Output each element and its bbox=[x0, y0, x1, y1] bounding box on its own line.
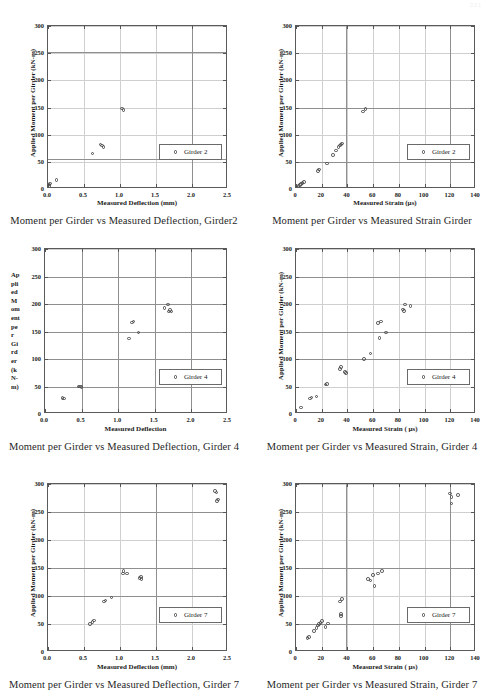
y-axis-tick-label: 300 bbox=[275, 245, 292, 252]
y-axis-tick bbox=[296, 162, 299, 163]
x-axis-tick-label: 120 bbox=[444, 416, 454, 423]
x-axis-tick-top bbox=[322, 484, 323, 487]
legend-marker-icon bbox=[422, 150, 425, 153]
x-axis-tick-label: 0 bbox=[293, 416, 296, 423]
x-axis-tick-top bbox=[155, 249, 156, 252]
y-axis-tick-label: 150 bbox=[275, 327, 292, 334]
data-point bbox=[325, 382, 329, 386]
data-point bbox=[456, 493, 460, 497]
data-point bbox=[302, 180, 306, 184]
y-axis-tick-right bbox=[223, 26, 226, 27]
x-axis-tick bbox=[120, 184, 121, 187]
gridline-horizontal bbox=[48, 540, 226, 541]
x-axis-tick bbox=[399, 409, 400, 412]
x-axis-tick-top bbox=[84, 484, 85, 487]
legend[interactable]: Girder 7 bbox=[407, 607, 470, 623]
plot-canvas: Girder 7 bbox=[48, 484, 226, 650]
data-point bbox=[102, 145, 106, 149]
data-point bbox=[331, 153, 335, 157]
legend[interactable]: Girder 2 bbox=[159, 144, 222, 160]
legend-label: Girder 2 bbox=[432, 148, 456, 156]
gridline-horizontal-major bbox=[45, 277, 226, 278]
data-point bbox=[340, 142, 344, 146]
gridline-vertical bbox=[347, 249, 348, 412]
x-axis-title: Measured Deflection bbox=[44, 425, 227, 433]
x-axis-tick bbox=[191, 409, 192, 412]
gridline-horizontal-major bbox=[296, 108, 474, 109]
y-axis-tick bbox=[48, 512, 51, 513]
data-point bbox=[379, 320, 383, 324]
gridline-horizontal-major bbox=[45, 332, 226, 333]
x-axis-tick bbox=[373, 409, 374, 412]
legend[interactable]: Girder 4 bbox=[159, 369, 222, 385]
y-axis-tick bbox=[48, 540, 51, 541]
x-axis-tick bbox=[45, 409, 46, 412]
data-point bbox=[91, 152, 95, 156]
y-axis-tick-label: 200 bbox=[27, 536, 44, 543]
x-axis-tick bbox=[155, 409, 156, 412]
data-point bbox=[373, 584, 377, 588]
data-point bbox=[334, 149, 338, 153]
legend[interactable]: Girder 2 bbox=[407, 144, 470, 160]
y-axis-tick bbox=[48, 162, 51, 163]
x-axis-tick-label: 2.5 bbox=[223, 416, 231, 423]
x-axis-tick-top bbox=[192, 484, 193, 487]
gridline-horizontal-major bbox=[48, 52, 226, 53]
y-axis-tick bbox=[48, 135, 51, 136]
data-point bbox=[299, 406, 303, 410]
legend-label: Girder 7 bbox=[432, 611, 456, 619]
data-point bbox=[312, 629, 316, 633]
plot-area: Girder 7 bbox=[47, 483, 227, 651]
x-axis-tick bbox=[450, 184, 451, 187]
y-axis-tick-label: 200 bbox=[275, 300, 292, 307]
gridline-vertical bbox=[425, 484, 426, 650]
y-axis-tick-label: 150 bbox=[275, 564, 292, 571]
y-axis-tick-right bbox=[471, 277, 474, 278]
y-axis-tick-label: 300 bbox=[27, 480, 44, 487]
y-axis-tick-label: 100 bbox=[27, 130, 44, 137]
x-axis-tick-label: 100 bbox=[419, 416, 429, 423]
x-axis-tick-label: 1.5 bbox=[151, 654, 159, 661]
gridline-vertical bbox=[120, 484, 121, 650]
legend-marker-icon bbox=[422, 613, 425, 616]
y-axis-tick-label: 0 bbox=[27, 185, 44, 192]
data-point bbox=[340, 597, 344, 601]
data-point bbox=[122, 108, 126, 112]
x-axis-tick-top bbox=[399, 484, 400, 487]
x-axis-tick-label: 1.5 bbox=[150, 416, 158, 423]
plot-area: Girder 7 bbox=[295, 483, 475, 651]
gridline-vertical-major bbox=[192, 26, 193, 187]
y-axis-tick bbox=[296, 596, 299, 597]
x-axis-tick bbox=[425, 647, 426, 650]
y-axis-tick-right bbox=[223, 387, 226, 388]
figure-cell: Girder 7 Measured Deflection (mm) Applie… bbox=[0, 468, 248, 700]
figure-caption: Moment per Girder vs Measured Strain Gir… bbox=[248, 215, 496, 226]
data-point bbox=[104, 599, 108, 603]
gridline-horizontal bbox=[45, 249, 226, 250]
y-axis-tick-label: 100 bbox=[24, 355, 41, 362]
x-axis-tick-top bbox=[425, 484, 426, 487]
y-axis-tick-right bbox=[471, 135, 474, 136]
data-point bbox=[317, 168, 321, 172]
y-axis-tick-right bbox=[471, 80, 474, 81]
legend[interactable]: Girder 7 bbox=[159, 607, 222, 623]
x-axis-tick bbox=[399, 184, 400, 187]
y-axis-tick bbox=[296, 304, 299, 305]
figure-cell: Girder 4 Measured Strain ( µs) Applied M… bbox=[248, 238, 496, 468]
gridline-horizontal-major bbox=[296, 624, 474, 625]
y-axis-tick bbox=[296, 108, 299, 109]
gridline-vertical bbox=[347, 26, 348, 187]
y-axis-tick-label: 200 bbox=[27, 76, 44, 83]
data-point bbox=[315, 395, 319, 399]
gridline-vertical bbox=[322, 249, 323, 412]
x-axis-tick-top bbox=[399, 26, 400, 29]
y-axis-title-fragment: Gi bbox=[11, 340, 27, 349]
x-axis-tick bbox=[84, 184, 85, 187]
y-axis-tick bbox=[296, 277, 299, 278]
gridline-horizontal bbox=[48, 53, 226, 54]
y-axis-tick-label: 50 bbox=[24, 382, 41, 389]
x-axis-tick-label: 100 bbox=[419, 191, 429, 198]
y-axis-tick-right bbox=[223, 277, 226, 278]
legend[interactable]: Girder 4 bbox=[407, 369, 470, 385]
gridline-vertical-major bbox=[346, 26, 347, 187]
